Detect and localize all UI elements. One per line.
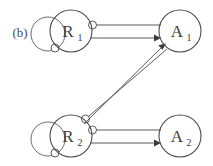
self-loop-r2-arc xyxy=(31,122,65,156)
node-a1-label: A xyxy=(171,22,184,41)
edge-r2-a1-activate-arrow-head xyxy=(158,44,166,50)
edge-r2-a1-inhibit-line xyxy=(89,49,168,117)
node-r2-subscript: 2 xyxy=(78,137,83,148)
panel-label: (b) xyxy=(12,25,27,40)
node-r2-label: R xyxy=(62,127,74,146)
node-a1-subscript: 1 xyxy=(187,32,192,43)
node-a1[interactable]: A 1 xyxy=(159,10,201,52)
figure-panel: R 1 A 1 R 2 A 2 (b) xyxy=(0,0,213,166)
node-r1[interactable]: R 1 xyxy=(50,10,92,52)
node-a2-label: A xyxy=(171,127,184,146)
node-r1-subscript: 1 xyxy=(78,32,83,43)
node-a2[interactable]: A 2 xyxy=(159,115,201,157)
node-r2[interactable]: R 2 xyxy=(50,115,92,157)
edge-r2-a1-activate-line xyxy=(84,46,163,124)
node-a2-subscript: 2 xyxy=(187,137,192,148)
node-r1-label: R xyxy=(62,22,74,41)
diagram-svg: R 1 A 1 R 2 A 2 (b) xyxy=(0,0,213,166)
self-loop-r1-arc xyxy=(31,17,65,51)
